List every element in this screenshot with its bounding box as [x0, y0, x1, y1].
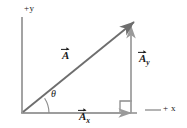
vector-ax-label: A x [79, 111, 90, 122]
vector-a-arrow [23, 22, 134, 112]
vector-arrow-accent-a [61, 46, 70, 51]
vector-a-letter: A [62, 49, 69, 61]
x-axis-label: + x [163, 104, 176, 113]
vector-ay-label: A y [139, 53, 150, 64]
angle-theta-arc [45, 98, 49, 113]
vector-ax-subscript: x [86, 116, 90, 125]
vector-arrow-accent-ax [78, 107, 87, 112]
vector-a-label: A [62, 50, 69, 61]
vector-components-figure: +y + x A A y A x θ [0, 0, 187, 128]
angle-theta-label: θ [51, 89, 56, 99]
vector-ay-subscript: y [146, 58, 149, 67]
vector-diagram-canvas [0, 0, 187, 128]
vector-arrow-accent-ay [138, 49, 147, 54]
y-axis-label: +y [24, 4, 34, 13]
